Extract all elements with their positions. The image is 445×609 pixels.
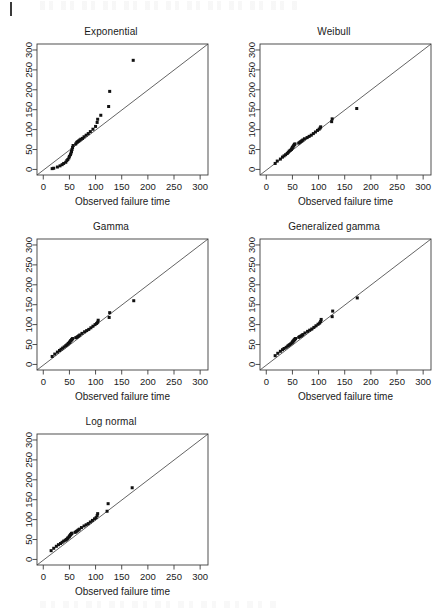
data-point: [294, 337, 297, 340]
data-points: [51, 299, 136, 358]
x-tick-label: 250: [166, 571, 182, 582]
x-tick-label: 150: [114, 571, 130, 582]
identity-reference-line: [37, 434, 208, 565]
y-tick-label: 100: [246, 317, 257, 333]
y-tick-label: 150: [23, 102, 34, 118]
x-tick-label: 200: [140, 181, 156, 192]
y-tick-label: 100: [23, 317, 34, 333]
y-tick-label: 200: [23, 472, 34, 488]
x-axis-title: Observed failure time: [298, 391, 393, 401]
x-tick-label: 300: [192, 181, 208, 192]
x-tick-label: 250: [166, 181, 182, 192]
panel-generalized-gamma: Generalized gamma 0501001502002503000501…: [223, 205, 445, 401]
data-point: [294, 142, 297, 145]
data-points: [274, 296, 359, 357]
x-tick-label: 0: [41, 181, 46, 192]
y-tick-label: 250: [23, 452, 34, 468]
data-point: [355, 107, 358, 110]
x-tick-label: 150: [337, 181, 353, 192]
y-tick-label: 50: [23, 339, 34, 350]
x-tick-label: 200: [140, 376, 156, 387]
y-tick-label: 150: [246, 297, 257, 313]
data-point: [331, 117, 334, 120]
y-tick-label: 0: [246, 167, 257, 172]
panel-gamma: Gamma 0501001502002503000501001502002503…: [0, 205, 222, 401]
y-tick-label: 100: [23, 512, 34, 528]
x-tick-label: 200: [140, 571, 156, 582]
y-tick-label: 250: [23, 62, 34, 78]
data-point: [274, 354, 277, 357]
x-tick-label: 250: [166, 376, 182, 387]
y-tick-label: 150: [23, 492, 34, 508]
x-tick-label: 100: [88, 181, 104, 192]
y-tick-label: 250: [246, 62, 257, 78]
data-point: [107, 502, 110, 505]
y-tick-label: 50: [246, 144, 257, 155]
data-point: [331, 315, 334, 318]
data-point: [320, 318, 323, 321]
data-point: [132, 59, 135, 62]
data-point: [52, 167, 55, 170]
identity-reference-line: [260, 239, 431, 370]
y-tick-label: 300: [246, 42, 257, 58]
plot-area-log-normal: 050100150200250300050100150200250300Obse…: [0, 400, 222, 596]
plot-area-weibull: 050100150200250300050100150200250300Obse…: [223, 10, 445, 206]
data-point: [71, 532, 74, 535]
data-point: [319, 125, 322, 128]
x-tick-label: 300: [192, 571, 208, 582]
y-tick-label: 300: [23, 432, 34, 448]
y-tick-label: 200: [246, 82, 257, 98]
data-point: [96, 118, 99, 121]
data-point: [131, 486, 134, 489]
y-tick-label: 0: [23, 557, 34, 562]
panel-log-normal: Log normal 05010015020025030005010015020…: [0, 400, 222, 596]
y-tick-label: 50: [23, 144, 34, 155]
x-tick-label: 300: [415, 376, 431, 387]
y-tick-label: 50: [246, 339, 257, 350]
x-tick-label: 250: [389, 376, 405, 387]
x-tick-label: 100: [88, 376, 104, 387]
data-point: [276, 352, 279, 355]
data-point: [96, 121, 99, 124]
y-tick-label: 250: [23, 257, 34, 273]
data-points: [51, 59, 135, 170]
data-point: [51, 355, 54, 358]
x-tick-label: 150: [337, 376, 353, 387]
x-tick-label: 50: [64, 571, 75, 582]
data-point: [276, 160, 279, 163]
x-tick-label: 100: [311, 376, 327, 387]
data-point: [94, 125, 97, 128]
data-point: [132, 299, 135, 302]
data-point: [52, 547, 55, 550]
y-tick-label: 200: [246, 277, 257, 293]
x-tick-label: 50: [64, 376, 75, 387]
x-tick-label: 0: [264, 376, 269, 387]
y-tick-label: 0: [23, 167, 34, 172]
data-point: [72, 144, 75, 147]
x-tick-label: 150: [114, 181, 130, 192]
y-tick-label: 100: [246, 122, 257, 138]
x-axis-title: Observed failure time: [75, 586, 170, 596]
data-point: [330, 120, 333, 123]
data-point: [80, 526, 83, 529]
plot-area-gamma: 050100150200250300050100150200250300Obse…: [0, 205, 222, 401]
data-point: [80, 332, 83, 335]
y-tick-label: 200: [23, 82, 34, 98]
panel-exponential: Exponential 0501001502002503000501001502…: [0, 10, 222, 206]
y-tick-label: 0: [246, 362, 257, 367]
identity-reference-line: [37, 44, 208, 175]
panel-weibull: Weibull 05010015020025030005010015020025…: [223, 10, 445, 206]
x-tick-label: 50: [64, 181, 75, 192]
data-point: [108, 90, 111, 93]
plot-area-generalized-gamma: 050100150200250300050100150200250300Obse…: [223, 205, 445, 401]
y-tick-label: 300: [23, 237, 34, 253]
y-tick-label: 100: [23, 122, 34, 138]
x-tick-label: 50: [287, 181, 298, 192]
y-tick-label: 250: [246, 257, 257, 273]
data-point: [56, 166, 59, 169]
data-point: [50, 549, 53, 552]
x-tick-label: 250: [389, 181, 405, 192]
data-point: [89, 130, 92, 133]
x-tick-label: 300: [192, 376, 208, 387]
data-point: [106, 510, 109, 513]
